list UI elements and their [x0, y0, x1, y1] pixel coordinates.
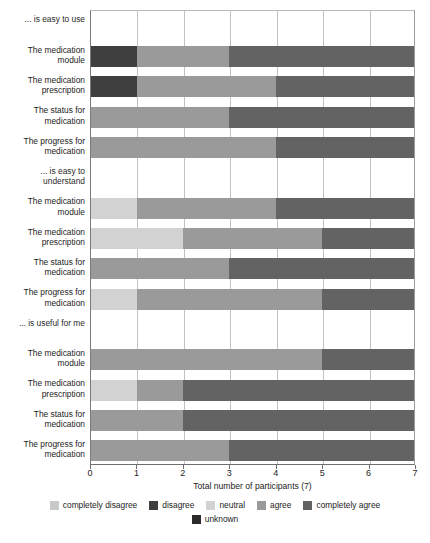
- category-label: The medication module: [0, 348, 85, 369]
- x-tick-label: 1: [126, 468, 146, 478]
- bar-row: [91, 198, 414, 219]
- bar-row: [91, 228, 414, 249]
- bar-segment-disagree: [91, 76, 137, 97]
- bar-segment-completely-agree: [229, 107, 414, 128]
- x-tick-label: 7: [405, 468, 425, 478]
- legend-item-disagree[interactable]: disagree: [149, 500, 194, 510]
- legend-item-neutral[interactable]: neutral: [206, 500, 245, 510]
- legend-item-completely-agree[interactable]: completely agree: [303, 500, 380, 510]
- bar-segment-neutral: [91, 228, 183, 249]
- legend-row: unknown: [0, 514, 430, 524]
- legend-row: completely disagreedisagreeneutralagreec…: [0, 500, 430, 510]
- bar-segment-agree: [137, 380, 183, 401]
- bar-segment-completely-agree: [322, 228, 414, 249]
- plot-area: [90, 10, 415, 465]
- bar-segment-agree: [91, 258, 229, 279]
- bar-row: [91, 380, 414, 401]
- bar-row: [91, 410, 414, 431]
- x-axis-title-text: Total number of participants (7): [118, 481, 311, 491]
- category-label: The status for medication: [0, 409, 85, 430]
- legend-swatch-icon: [257, 501, 266, 510]
- bar-row: [91, 76, 414, 97]
- bar-segment-completely-agree: [229, 258, 414, 279]
- bar-row: [91, 258, 414, 279]
- chart-legend: completely disagreedisagreeneutralagreec…: [0, 500, 430, 528]
- bar-segment-completely-agree: [183, 380, 414, 401]
- category-label: The status for medication: [0, 257, 85, 278]
- group-header-label: ... is easy to understand: [0, 166, 85, 187]
- bar-segment-agree: [137, 289, 322, 310]
- bar-segment-neutral: [91, 198, 137, 219]
- bar-row: [91, 289, 414, 310]
- bar-row: [91, 349, 414, 370]
- category-label: The progress for medication: [0, 287, 85, 308]
- bar-segment-agree: [91, 410, 183, 431]
- legend-swatch-icon: [149, 501, 158, 510]
- bar-segment-completely-agree: [276, 137, 414, 158]
- stacked-bar-chart: ... is easy to useThe medication moduleT…: [0, 0, 430, 543]
- x-tick-label: 5: [312, 468, 332, 478]
- x-tick-label: 4: [266, 468, 286, 478]
- bar-segment-agree: [91, 440, 229, 461]
- bar-segment-disagree: [91, 46, 137, 67]
- legend-label: disagree: [162, 500, 194, 510]
- bar-row: [91, 46, 414, 67]
- bar-row: [91, 137, 414, 158]
- legend-swatch-icon: [206, 501, 215, 510]
- legend-swatch-icon: [192, 515, 201, 524]
- bar-segment-completely-agree: [229, 440, 414, 461]
- x-axis-title: Total number of participants (7): [0, 481, 430, 491]
- legend-swatch-icon: [303, 501, 312, 510]
- category-label: The status for medication: [0, 105, 85, 126]
- legend-swatch-icon: [50, 501, 59, 510]
- bar-segment-agree: [137, 198, 275, 219]
- bar-segment-agree: [137, 76, 275, 97]
- bar-segment-agree: [91, 107, 229, 128]
- x-tick-label: 0: [80, 468, 100, 478]
- x-tick-label: 3: [219, 468, 239, 478]
- bar-row: [91, 440, 414, 461]
- group-header-label: ... is useful for me: [0, 318, 85, 329]
- legend-label: agree: [270, 500, 291, 510]
- legend-item-unknown[interactable]: unknown: [192, 514, 239, 524]
- legend-label: neutral: [219, 500, 245, 510]
- bar-segment-neutral: [91, 289, 137, 310]
- legend-label: completely agree: [316, 500, 380, 510]
- bar-segment-neutral: [91, 380, 137, 401]
- bar-segment-agree: [91, 349, 322, 370]
- group-header-label: ... is easy to use: [0, 14, 85, 25]
- category-label: The medication prescription: [0, 75, 85, 96]
- bar-row: [91, 107, 414, 128]
- plot-wrapper: ... is easy to useThe medication moduleT…: [0, 0, 430, 470]
- category-label: The medication prescription: [0, 378, 85, 399]
- bar-segment-completely-agree: [229, 46, 414, 67]
- legend-label: completely disagree: [63, 500, 137, 510]
- bar-segment-completely-agree: [322, 289, 414, 310]
- category-label: The medication prescription: [0, 227, 85, 248]
- legend-label: unknown: [205, 514, 239, 524]
- bar-segment-completely-agree: [276, 76, 414, 97]
- bar-segment-agree: [183, 228, 321, 249]
- category-label: The progress for medication: [0, 439, 85, 460]
- bar-segment-completely-agree: [322, 349, 414, 370]
- bar-segment-agree: [137, 46, 229, 67]
- bar-segment-agree: [91, 137, 276, 158]
- legend-item-completely-disagree[interactable]: completely disagree: [50, 500, 137, 510]
- category-label: The medication module: [0, 45, 85, 66]
- bar-segment-completely-agree: [276, 198, 414, 219]
- category-label: The progress for medication: [0, 136, 85, 157]
- legend-item-agree[interactable]: agree: [257, 500, 291, 510]
- bar-segment-completely-agree: [183, 410, 414, 431]
- x-tick-label: 6: [359, 468, 379, 478]
- x-tick-label: 2: [173, 468, 193, 478]
- category-label: The medication module: [0, 196, 85, 217]
